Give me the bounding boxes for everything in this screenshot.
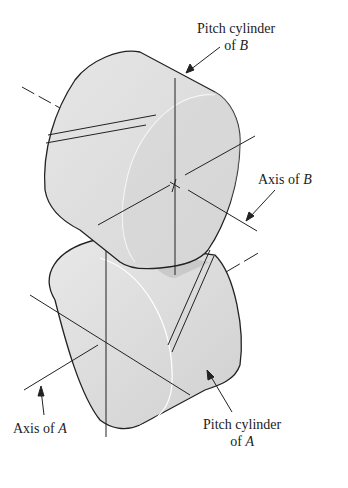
label-axis-a-var: A: [58, 421, 67, 436]
label-pitch-a-var: A: [245, 434, 254, 449]
label-pitch-b-var: B: [239, 38, 248, 53]
arrow-axis-a: [38, 386, 44, 396]
label-axis-b: Axis of B: [258, 171, 312, 188]
label-pitch-cylinder-a: Pitch cylinder of A: [203, 416, 281, 450]
gear-diagram: [0, 0, 348, 488]
pitch-cylinder-b: [22, 51, 257, 275]
label-pitch-b-prefix: of: [224, 38, 239, 53]
label-pitch-cylinder-b: Pitch cylinder of B: [197, 20, 275, 54]
label-axis-a-prefix: Axis of: [13, 421, 58, 436]
label-axis-b-var: B: [303, 172, 312, 187]
label-axis-a: Axis of A: [13, 420, 67, 437]
label-axis-b-prefix: Axis of: [258, 172, 303, 187]
label-pitch-b-line1: Pitch cylinder: [197, 20, 275, 37]
arrow-pitch-b: [186, 64, 194, 73]
label-pitch-a-prefix: of: [230, 434, 245, 449]
label-pitch-a-line1: Pitch cylinder: [203, 416, 281, 433]
pitch-cylinder-a: [24, 240, 260, 437]
